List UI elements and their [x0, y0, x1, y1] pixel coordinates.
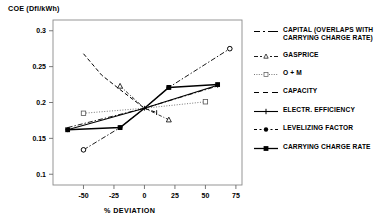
series-electr-efficiency — [65, 83, 220, 132]
marker-circle-open — [228, 46, 233, 51]
plot-frame — [53, 20, 242, 185]
legend-label-o-and-m: O + M — [283, 69, 302, 77]
legend-label-levelizing-factor: LEVELIZING FACTOR — [283, 124, 353, 132]
x-tick-label: 75 — [232, 192, 240, 199]
x-tick-label: 25 — [171, 192, 179, 199]
marker-square-filled — [166, 85, 171, 90]
legend-label-electr-efficiency: ELECTR. EFFICIENCY — [283, 106, 355, 114]
legend-item-levelizing-factor[interactable]: LEVELIZING FACTOR — [253, 124, 377, 133]
series-line — [68, 85, 218, 129]
legend-label-gasprice: GASPRICE — [283, 51, 319, 59]
legend-swatch-levelizing-factor-icon — [253, 125, 279, 134]
y-tick-label: 0.3 — [36, 27, 46, 34]
y-tick-label: 0.1 — [36, 171, 46, 178]
marker-triangle-open — [118, 83, 123, 88]
legend-item-o-and-m[interactable]: O + M — [253, 69, 377, 78]
legend-swatch-electr-efficiency-icon — [253, 107, 279, 116]
legend-swatch-carrying-charge-rate-icon — [253, 144, 279, 153]
marker-square-open — [203, 100, 207, 104]
y-tick-label: 0.25 — [32, 63, 46, 70]
legend-item-capacity[interactable]: CAPACITY — [253, 87, 377, 96]
marker-square-filled — [65, 127, 70, 132]
x-tick-label: 0 — [142, 192, 146, 199]
legend-swatch-o-and-m-icon — [253, 70, 279, 79]
x-tick-label: 50 — [202, 192, 210, 199]
legend-swatch-capacity-icon — [253, 88, 279, 97]
series-levelizing-factor — [81, 46, 232, 152]
marker-square-filled — [215, 82, 220, 87]
x-tick-label: -25 — [109, 192, 119, 199]
x-tick-label: -50 — [78, 192, 88, 199]
y-tick-label: 0.2 — [36, 99, 46, 106]
marker-circle-open — [81, 148, 86, 153]
chart-figure: COE (Dfl/kWh) % DEVIATION 0.10.150.20.25… — [0, 0, 377, 223]
legend-item-carrying-charge-rate[interactable]: CARRYING CHARGE RATE — [253, 143, 377, 152]
legend-swatch-gasprice-icon — [253, 52, 279, 61]
y-tick-label: 0.15 — [32, 135, 46, 142]
legend-label-capital: CAPITAL (OVERLAPS WITH CARRYING CHARGE R… — [283, 26, 373, 41]
legend-label-carrying-charge-rate: CARRYING CHARGE RATE — [283, 143, 371, 151]
legend-item-gasprice[interactable]: GASPRICE — [253, 51, 377, 60]
legend-label-capacity: CAPACITY — [283, 87, 317, 95]
legend-swatch-capital-icon — [253, 27, 279, 36]
marker-square-filled — [118, 125, 123, 130]
marker-triangle-open — [166, 117, 171, 122]
marker-square-open — [81, 111, 85, 115]
legend-item-electr-efficiency[interactable]: ELECTR. EFFICIENCY — [253, 106, 377, 115]
legend-item-capital[interactable]: CAPITAL (OVERLAPS WITH CARRYING CHARGE R… — [253, 26, 377, 41]
chart-legend: CAPITAL (OVERLAPS WITH CARRYING CHARGE R… — [253, 26, 377, 161]
